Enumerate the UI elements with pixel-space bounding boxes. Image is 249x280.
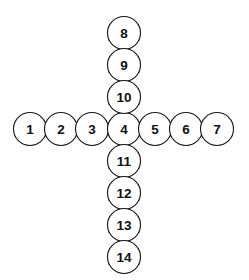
node-14[interactable]: 14 (108, 241, 141, 274)
node-9[interactable]: 9 (108, 49, 141, 82)
node-8[interactable]: 8 (108, 17, 141, 50)
node-label: 11 (117, 154, 132, 169)
cross-diagram: 1234567891011121314 (0, 0, 249, 280)
node-group: 1234567891011121314 (14, 17, 234, 274)
node-label: 2 (57, 122, 65, 137)
node-4[interactable]: 4 (108, 113, 141, 146)
node-11[interactable]: 11 (108, 145, 141, 178)
node-label: 1 (26, 122, 34, 137)
node-label: 13 (116, 218, 132, 233)
node-12[interactable]: 12 (108, 177, 141, 210)
node-3[interactable]: 3 (76, 113, 109, 146)
node-1[interactable]: 1 (14, 113, 47, 146)
node-2[interactable]: 2 (45, 113, 78, 146)
node-6[interactable]: 6 (170, 113, 203, 146)
node-label: 14 (116, 250, 132, 265)
cross-diagram-canvas: 1234567891011121314 (0, 0, 249, 280)
node-5[interactable]: 5 (139, 113, 172, 146)
node-label: 5 (151, 122, 159, 137)
node-7[interactable]: 7 (201, 113, 234, 146)
node-label: 7 (213, 122, 221, 137)
node-label: 3 (88, 122, 96, 137)
node-label: 12 (116, 186, 131, 201)
node-10[interactable]: 10 (108, 81, 141, 114)
node-label: 4 (120, 122, 128, 137)
node-label: 8 (120, 26, 128, 41)
node-13[interactable]: 13 (108, 209, 141, 242)
node-label: 6 (182, 122, 190, 137)
node-label: 9 (120, 58, 128, 73)
node-label: 10 (116, 90, 131, 105)
